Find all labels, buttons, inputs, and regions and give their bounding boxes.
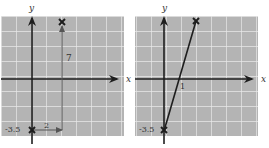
right-grid (135, 16, 258, 136)
right-x-axis-label: x (261, 74, 266, 84)
right-graph: y x -3.5 1 (135, 3, 266, 144)
left-graph: y x 2 7 -3.5 (1, 3, 131, 144)
figure: y x 2 7 -3.5 y x -3.5 1 (0, 0, 269, 148)
left-x-axis-label: x (126, 74, 131, 84)
x-intercept-label: 1 (180, 82, 185, 91)
run-label: 2 (44, 121, 49, 130)
right-y-axis-label: y (161, 3, 168, 13)
left-y-intercept-label: -3.5 (5, 125, 20, 134)
left-y-axis-label: y (28, 3, 35, 13)
rise-label: 7 (66, 53, 72, 63)
right-y-intercept-label: -3.5 (139, 125, 154, 134)
